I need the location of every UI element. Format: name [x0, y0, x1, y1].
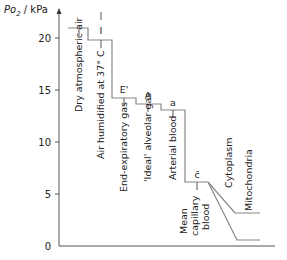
y-ticks: 20 15 10 5 0 — [38, 33, 59, 252]
label-capillary: capillary — [189, 195, 200, 236]
label-mitochondria: Mitochondria — [243, 149, 254, 211]
marker-c-bar: c̄ — [194, 169, 200, 180]
svg-text:0: 0 — [45, 241, 51, 252]
svg-text:10: 10 — [38, 137, 51, 148]
label-humidified-air: Air humidified at 37° C — [95, 50, 106, 159]
y-axis-arrow-icon — [57, 8, 62, 14]
y-axis-label: Po2 / kPa — [4, 4, 48, 18]
po2-cascade-line — [68, 28, 208, 182]
label-cytoplasm: Cytoplasm — [223, 138, 234, 189]
marker-I: I — [100, 25, 103, 36]
marker-a: a — [170, 97, 176, 108]
label-mean: Mean — [178, 208, 189, 234]
label-ideal-alveolar-gas: 'Ideal' alveolar gas — [142, 93, 153, 182]
svg-text:15: 15 — [38, 85, 51, 96]
label-blood: blood — [200, 204, 211, 230]
svg-text:5: 5 — [45, 189, 51, 200]
label-arterial-blood: Arterial blood — [167, 116, 178, 180]
label-dry-atmospheric-air: Dry atmospheric air — [73, 17, 84, 112]
label-end-expiratory-gas: End-expiratory gas — [118, 102, 129, 192]
marker-E: E' — [120, 84, 129, 95]
po2-cascade-chart: Po2 / kPa 20 15 10 5 0 I E' A a c̄ Dry a… — [0, 0, 287, 260]
svg-text:20: 20 — [38, 33, 51, 44]
